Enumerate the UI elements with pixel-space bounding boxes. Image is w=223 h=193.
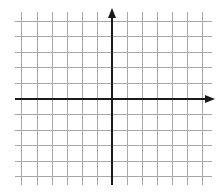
coordinate-plane bbox=[0, 0, 223, 193]
x-axis-arrow-icon bbox=[205, 95, 215, 103]
y-axis-arrow-icon bbox=[108, 8, 116, 18]
